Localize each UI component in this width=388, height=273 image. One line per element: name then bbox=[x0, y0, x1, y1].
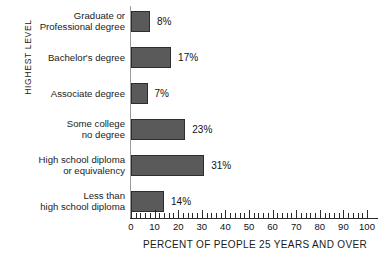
x-tick-minor bbox=[164, 213, 165, 218]
bar bbox=[131, 47, 171, 68]
x-tick-minor bbox=[315, 213, 316, 218]
x-tick-minor bbox=[136, 213, 137, 218]
education-attainment-bar-chart: HIGHEST LEVEL Graduate orProfessional de… bbox=[0, 0, 388, 273]
x-tick-major bbox=[249, 210, 250, 218]
x-tick-minor bbox=[145, 213, 146, 218]
bar bbox=[131, 83, 148, 104]
x-tick-major bbox=[225, 210, 226, 218]
x-tick-minor bbox=[254, 213, 255, 218]
category-label-line: High school diploma bbox=[17, 154, 125, 166]
x-tick-minor bbox=[240, 213, 241, 218]
category-label-line: Some college bbox=[17, 118, 125, 130]
x-tick-minor bbox=[244, 213, 245, 218]
x-tick-major bbox=[320, 210, 321, 218]
x-tick-label: 50 bbox=[244, 221, 255, 232]
category-label-line: no degree bbox=[17, 129, 125, 141]
bar-value-label: 7% bbox=[155, 88, 169, 99]
bar-value-label: 17% bbox=[178, 52, 198, 63]
category-label-line: or equivalency bbox=[17, 165, 125, 177]
x-tick-label: 20 bbox=[173, 221, 184, 232]
x-tick-minor bbox=[173, 213, 174, 218]
category-label-line: Professional degree bbox=[17, 21, 125, 33]
category-label: Less thanhigh school diploma bbox=[17, 190, 129, 213]
x-tick-label: 0 bbox=[128, 221, 133, 232]
x-tick-minor bbox=[216, 213, 217, 218]
x-tick-major bbox=[296, 210, 297, 218]
x-tick-minor bbox=[263, 213, 264, 218]
x-tick-minor bbox=[348, 213, 349, 218]
x-tick-minor bbox=[301, 213, 302, 218]
x-tick-minor bbox=[282, 213, 283, 218]
bar bbox=[131, 155, 204, 176]
category-label: High school diplomaor equivalency bbox=[17, 154, 129, 177]
x-tick-minor bbox=[211, 213, 212, 218]
x-tick-minor bbox=[287, 213, 288, 218]
category-label-line: high school diploma bbox=[17, 201, 125, 213]
x-tick-minor bbox=[306, 213, 307, 218]
x-tick-minor bbox=[183, 213, 184, 218]
x-tick-major bbox=[178, 210, 179, 218]
bar bbox=[131, 119, 185, 140]
category-label: Associate degree bbox=[17, 88, 129, 100]
x-tick-minor bbox=[329, 213, 330, 218]
category-label-line: Less than bbox=[17, 190, 125, 202]
x-tick-label: 30 bbox=[197, 221, 208, 232]
x-tick-label: 100 bbox=[359, 221, 375, 232]
x-tick-minor bbox=[140, 213, 141, 218]
plot-area: Graduate orProfessional degreeBachelor's… bbox=[0, 0, 388, 273]
x-tick-major bbox=[273, 210, 274, 218]
x-tick-minor bbox=[268, 213, 269, 218]
x-tick-label: 40 bbox=[220, 221, 231, 232]
x-tick-label: 80 bbox=[315, 221, 326, 232]
bar-value-label: 14% bbox=[171, 196, 191, 207]
x-tick-minor bbox=[291, 213, 292, 218]
x-tick-label: 60 bbox=[267, 221, 278, 232]
x-tick-label: 90 bbox=[338, 221, 349, 232]
x-tick-minor bbox=[353, 213, 354, 218]
category-label: Some collegeno degree bbox=[17, 118, 129, 141]
x-tick-major bbox=[343, 210, 344, 218]
x-tick-minor bbox=[325, 213, 326, 218]
x-tick-minor bbox=[339, 213, 340, 218]
bar bbox=[131, 191, 164, 212]
x-tick-minor bbox=[188, 213, 189, 218]
x-tick-minor bbox=[258, 213, 259, 218]
x-tick-major bbox=[367, 210, 368, 218]
bar-value-label: 23% bbox=[192, 124, 212, 135]
category-label: Bachelor's degree bbox=[17, 52, 129, 64]
category-label-line: Bachelor's degree bbox=[17, 52, 125, 64]
x-tick-minor bbox=[230, 213, 231, 218]
x-axis-line bbox=[130, 218, 378, 219]
x-tick-label: 70 bbox=[291, 221, 302, 232]
x-tick-minor bbox=[192, 213, 193, 218]
x-tick-minor bbox=[358, 213, 359, 218]
x-tick-label: 10 bbox=[149, 221, 160, 232]
bar-value-label: 31% bbox=[211, 160, 231, 171]
category-label-line: Graduate or bbox=[17, 10, 125, 22]
x-tick-minor bbox=[197, 213, 198, 218]
bar bbox=[131, 11, 150, 32]
category-label: Graduate orProfessional degree bbox=[17, 10, 129, 33]
x-axis-title: PERCENT OF PEOPLE 25 YEARS AND OVER bbox=[130, 239, 380, 250]
x-tick-major bbox=[202, 210, 203, 218]
x-tick-minor bbox=[277, 213, 278, 218]
x-tick-minor bbox=[159, 213, 160, 218]
x-tick-major bbox=[131, 210, 132, 218]
x-tick-minor bbox=[310, 213, 311, 218]
x-tick-minor bbox=[150, 213, 151, 218]
x-tick-minor bbox=[334, 213, 335, 218]
x-tick-minor bbox=[235, 213, 236, 218]
x-tick-major bbox=[155, 210, 156, 218]
bar-value-label: 8% bbox=[157, 16, 171, 27]
y-axis-line bbox=[130, 6, 131, 218]
x-tick-minor bbox=[221, 213, 222, 218]
x-tick-minor bbox=[169, 213, 170, 218]
x-tick-minor bbox=[362, 213, 363, 218]
x-tick-minor bbox=[207, 213, 208, 218]
category-label-line: Associate degree bbox=[17, 88, 125, 100]
